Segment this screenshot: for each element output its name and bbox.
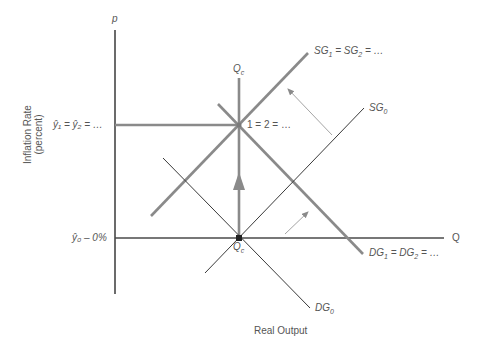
x-axis-title: Real Output <box>254 326 307 336</box>
diagram-canvas <box>0 0 481 354</box>
y-axis-title-line1: Inflation Rate <box>22 105 33 164</box>
y-axis-symbol: p <box>112 14 118 24</box>
y-axis-title-line2: (percent) <box>33 105 44 164</box>
y-tick-lower: ŷ₀ – 0% <box>72 233 107 243</box>
demand-shift-arrow <box>285 212 308 234</box>
equilibrium-label: 1 = 2 = … <box>247 120 291 130</box>
sg1-label: SG1 = SG2 = … <box>314 46 384 58</box>
supply-shift-arrow <box>288 89 332 135</box>
qc-label-bottom: Qc <box>233 242 244 254</box>
up-arrow-icon <box>233 172 245 190</box>
qc-label-top: Qc <box>233 64 244 76</box>
sg0-label: SG0 <box>369 103 387 115</box>
dg1-label: DG1 = DG2 = … <box>369 248 440 260</box>
dg0-label: DG0 <box>315 303 334 315</box>
sg1-curve <box>151 53 308 216</box>
y-tick-upper: ŷ₁ = ŷ₂ = … <box>53 120 103 130</box>
sg0-curve <box>205 108 364 273</box>
x-axis-symbol: Q <box>452 233 460 243</box>
equilibrium-point-upper <box>237 123 242 128</box>
